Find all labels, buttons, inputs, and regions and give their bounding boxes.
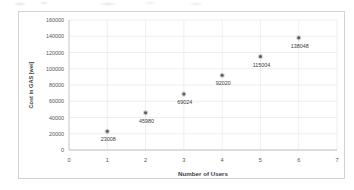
data-point-label: 115004 xyxy=(253,62,271,68)
data-point-label: 69024 xyxy=(177,99,192,105)
y-tick-label: 60000 xyxy=(49,98,64,104)
data-point-label: 23008 xyxy=(101,136,116,142)
y-tick-label: 0 xyxy=(61,147,64,153)
data-point xyxy=(106,130,109,133)
scan-artifact xyxy=(0,0,354,9)
data-point xyxy=(297,36,300,39)
y-tick-label: 80000 xyxy=(49,82,64,88)
y-tick-label: 140000 xyxy=(46,33,64,39)
y-tick-label: 160000 xyxy=(46,17,64,23)
x-axis-title: Number of Users xyxy=(178,170,228,177)
y-tick-label: 40000 xyxy=(49,115,64,121)
data-point xyxy=(182,92,185,95)
x-tick-label: 5 xyxy=(259,157,262,163)
x-tick-label: 3 xyxy=(182,157,185,163)
x-tick-label: 1 xyxy=(106,157,109,163)
y-tick-labels: 0200004000060000800001000001200001400001… xyxy=(46,17,64,153)
x-tick-label: 0 xyxy=(67,157,70,163)
x-tick-labels: 01234567 xyxy=(67,157,338,163)
data-point xyxy=(144,111,147,114)
x-tick-label: 6 xyxy=(297,157,300,163)
data-point-label: 138048 xyxy=(291,43,309,49)
data-points xyxy=(105,35,302,134)
x-tick-label: 7 xyxy=(335,157,338,163)
x-tick-label: 4 xyxy=(221,157,224,163)
data-point-labels: 23008459806902492020115004138048 xyxy=(101,43,309,142)
x-tick-label: 2 xyxy=(144,157,147,163)
scatter-plot: 0200004000060000800001000001200001400001… xyxy=(19,12,344,178)
data-point xyxy=(221,74,224,77)
data-point xyxy=(259,55,262,58)
data-point-label: 92020 xyxy=(216,80,231,86)
y-tick-label: 120000 xyxy=(46,50,64,56)
chart-panel: 0200004000060000800001000001200001400001… xyxy=(18,11,345,179)
data-point-label: 45980 xyxy=(139,118,154,124)
y-axis-title: Cost in GAS [wei] xyxy=(28,61,34,108)
y-tick-label: 100000 xyxy=(46,66,64,72)
y-tick-label: 20000 xyxy=(49,131,64,137)
